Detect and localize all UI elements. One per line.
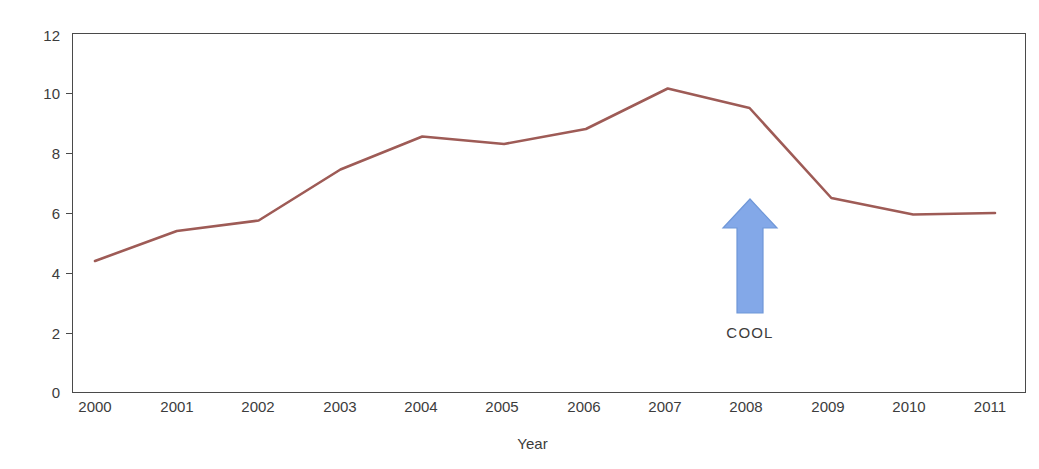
arrow-up-icon [718,196,782,316]
plot-area [72,33,1026,393]
x-tick-label-2008: 2008 [729,398,762,415]
x-tick-label-2006: 2006 [567,398,600,415]
x-tick-label-2000: 2000 [78,398,111,415]
x-tick-label-2007: 2007 [648,398,681,415]
annotation-label-cool: COOL [700,324,800,341]
x-tick-label-2003: 2003 [323,398,356,415]
x-tick-label-2002: 2002 [241,398,274,415]
x-axis-title: Year [0,435,1039,452]
x-tick-label-2004: 2004 [404,398,437,415]
x-axis-title-text: Year [517,435,547,452]
line-chart: 12 10 8 6 4 2 0 2000 2001 2002 2003 2004… [0,0,1039,469]
x-tick-label-2001: 2001 [160,398,193,415]
x-tick-label-2005: 2005 [485,398,518,415]
x-axis-labels: 2000 2001 2002 2003 2004 2005 2006 2007 … [0,398,1039,422]
x-tick-label-2009: 2009 [811,398,844,415]
x-tick-label-2010: 2010 [892,398,925,415]
x-tick-label-2011: 2011 [974,398,1006,415]
